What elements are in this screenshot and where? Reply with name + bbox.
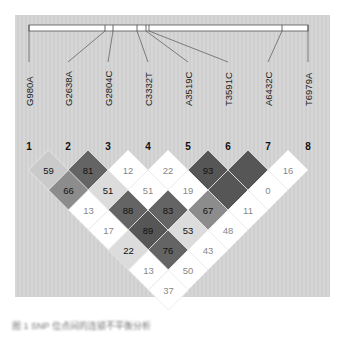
ld-cell-value: 19 (183, 185, 194, 196)
ld-cell-value: 51 (143, 185, 154, 196)
ld-cell-value: 53 (183, 225, 194, 236)
ld-cell-value: 13 (143, 265, 154, 276)
gene-bar-rect (29, 25, 308, 31)
ld-cell-value: 59 (43, 165, 54, 176)
snp-leader-line (268, 31, 282, 62)
snp-label: T6979A (303, 72, 314, 106)
snp-leader-lines (29, 31, 308, 62)
ld-matrix: 5981122293166651511901388836711178953482… (29, 150, 309, 310)
marker-number: 4 (145, 141, 151, 152)
snp-label: T3591C (223, 72, 234, 106)
ld-cell-value: 22 (123, 245, 134, 256)
ld-cell-value: 22 (163, 165, 174, 176)
ld-cell-value: 89 (143, 225, 154, 236)
ld-cell-value: 13 (83, 205, 94, 216)
ld-cell-value: 17 (103, 225, 114, 236)
snp-leader-line (137, 31, 148, 62)
snp-label: A3519C (183, 72, 194, 106)
snp-leader-line (149, 31, 228, 62)
marker-number: 1 (26, 141, 32, 152)
ld-cell-value: 51 (103, 185, 114, 196)
marker-number: 2 (65, 141, 71, 152)
snp-labels: G980AG2638AG2804CC3332TA3519CT3591CA6432… (24, 70, 314, 106)
ld-plot: G980AG2638AG2804CC3332TA3519CT3591CA6432… (0, 0, 341, 342)
ld-cell-value: 16 (283, 165, 294, 176)
ld-cell-value: 93 (203, 165, 214, 176)
ld-cell-value: 48 (223, 225, 234, 236)
gene-bar (29, 25, 308, 31)
snp-leader-line (108, 31, 113, 62)
snp-label: G980A (24, 76, 35, 106)
marker-number: 8 (305, 141, 311, 152)
snp-leader-line (146, 31, 188, 62)
ld-cell-value: 37 (163, 285, 174, 296)
ld-cell-value: 67 (203, 205, 214, 216)
ld-cell-value: 66 (63, 185, 74, 196)
ld-cell-value: 50 (183, 265, 194, 276)
ld-cell-value: 12 (123, 165, 134, 176)
ld-cell-value: 81 (83, 165, 94, 176)
marker-number: 5 (185, 141, 191, 152)
snp-leader-line (68, 31, 105, 62)
snp-label: A6432C (263, 72, 274, 106)
ld-cell-value: 83 (163, 205, 174, 216)
figure-caption: 图 1 SNP 位点间的连锁不平衡分析 (12, 319, 332, 331)
marker-number: 3 (105, 141, 111, 152)
snp-label: G2804C (103, 70, 114, 106)
ld-cell-value: 43 (203, 245, 214, 256)
ld-cell-value: 76 (163, 245, 174, 256)
snp-label: C3332T (143, 72, 154, 106)
marker-number: 7 (265, 141, 271, 152)
snp-label: G2638A (63, 70, 74, 106)
ld-cell-value: 11 (243, 205, 253, 216)
ld-cell-value: 88 (123, 205, 134, 216)
marker-number: 6 (225, 141, 231, 152)
ld-cell-value: 0 (265, 185, 270, 196)
